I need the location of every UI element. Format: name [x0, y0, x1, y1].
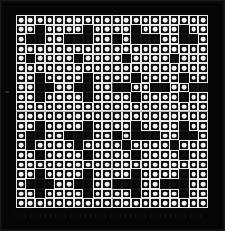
grid-cell-dark [131, 189, 141, 199]
grid-cell-light [179, 83, 189, 93]
grid-cell-light [179, 198, 189, 208]
grid-cell-dark [35, 92, 45, 102]
grid-cell-light [102, 73, 112, 83]
grid-cell-light [198, 189, 208, 199]
grid-cell-dark [64, 34, 74, 44]
grid-cell-light [45, 34, 55, 44]
grid-cell-light [141, 83, 151, 93]
grid-cell-light [16, 160, 26, 170]
grid-cell-dark [131, 179, 141, 189]
grid-cell-dark [170, 179, 180, 189]
grid-cell-dark [26, 179, 36, 189]
grid-cell-light [45, 15, 55, 25]
grid-cell-light [16, 102, 26, 112]
grid-cell-light [179, 54, 189, 64]
grid-cell-light [102, 198, 112, 208]
grid-cell-light [102, 25, 112, 35]
grid-cell-light [170, 198, 180, 208]
grid-cell-dark [189, 131, 199, 141]
grid-cell-light [170, 131, 180, 141]
grid-cell-dark [26, 131, 36, 141]
grid-cell-dark [112, 131, 122, 141]
grid-cell-light [64, 83, 74, 93]
grid-cell-light [54, 44, 64, 54]
grid-cell-light [64, 92, 74, 102]
grid-cell-light [189, 189, 199, 199]
grid-cell-light [93, 44, 103, 54]
grid-cell-light [170, 83, 180, 93]
grid-cell-light [160, 198, 170, 208]
grid-cell-light [189, 92, 199, 102]
grid-cell-light [160, 169, 170, 179]
grid-cell-light [45, 92, 55, 102]
grid-cell-light [54, 121, 64, 131]
grid-cell-light [150, 54, 160, 64]
grid-cell-light [93, 92, 103, 102]
grid-cell-light [26, 102, 36, 112]
grid-cell-dark [170, 140, 180, 150]
grid-cell-light [74, 160, 84, 170]
grid-cell-light [54, 179, 64, 189]
grid-cell-light [83, 63, 93, 73]
grid-cell-light [122, 131, 132, 141]
grid-cell-dark [141, 34, 151, 44]
grid-cell-light [150, 111, 160, 121]
grid-cell-light [45, 25, 55, 35]
artwork-grid-plate [16, 15, 208, 208]
grid-cell-light [102, 63, 112, 73]
grid-cell-light [74, 150, 84, 160]
grid-cell-light [45, 150, 55, 160]
grid-cell-dark [35, 73, 45, 83]
grid-cell-dark [83, 189, 93, 199]
grid-cell-dark [74, 131, 84, 141]
grid-cell-light [64, 54, 74, 64]
grid-cell-light [150, 63, 160, 73]
grid-cell-light [112, 150, 122, 160]
grid-cell-light [141, 102, 151, 112]
grid-cell-light [54, 63, 64, 73]
grid-cell-dark [83, 169, 93, 179]
grid-cell-light [93, 83, 103, 93]
grid-cell-light [198, 73, 208, 83]
op-art-grid [16, 15, 208, 208]
grid-cell-light [198, 92, 208, 102]
grid-cell-light [64, 189, 74, 199]
grid-cell-dark [112, 34, 122, 44]
grid-cell-light [122, 189, 132, 199]
grid-cell-light [141, 198, 151, 208]
grid-cell-light [102, 160, 112, 170]
grid-cell-light [16, 73, 26, 83]
grid-cell-light [198, 15, 208, 25]
grid-cell-light [102, 189, 112, 199]
grid-cell-dark [83, 150, 93, 160]
grid-cell-light [54, 169, 64, 179]
grid-cell-light [141, 169, 151, 179]
grid-cell-light [189, 198, 199, 208]
grid-cell-light [160, 150, 170, 160]
artwork-image: ~ [0, 0, 225, 231]
grid-cell-dark [45, 179, 55, 189]
grid-cell-light [102, 54, 112, 64]
grid-cell-light [102, 169, 112, 179]
grid-cell-light [74, 25, 84, 35]
grid-cell-light [160, 92, 170, 102]
grid-cell-dark [83, 92, 93, 102]
grid-cell-light [54, 111, 64, 121]
grid-cell-light [26, 25, 36, 35]
grid-cell-dark [179, 73, 189, 83]
grid-cell-light [179, 63, 189, 73]
grid-cell-light [16, 34, 26, 44]
grid-cell-light [198, 102, 208, 112]
grid-cell-dark [83, 121, 93, 131]
grid-cell-light [150, 140, 160, 150]
grid-cell-light [26, 169, 36, 179]
grid-cell-light [160, 102, 170, 112]
grid-cell-light [141, 121, 151, 131]
grid-cell-light [122, 169, 132, 179]
grid-cell-light [64, 111, 74, 121]
grid-cell-light [122, 111, 132, 121]
grid-cell-light [26, 63, 36, 73]
grid-cell-light [112, 198, 122, 208]
grid-cell-light [122, 15, 132, 25]
grid-cell-light [141, 189, 151, 199]
